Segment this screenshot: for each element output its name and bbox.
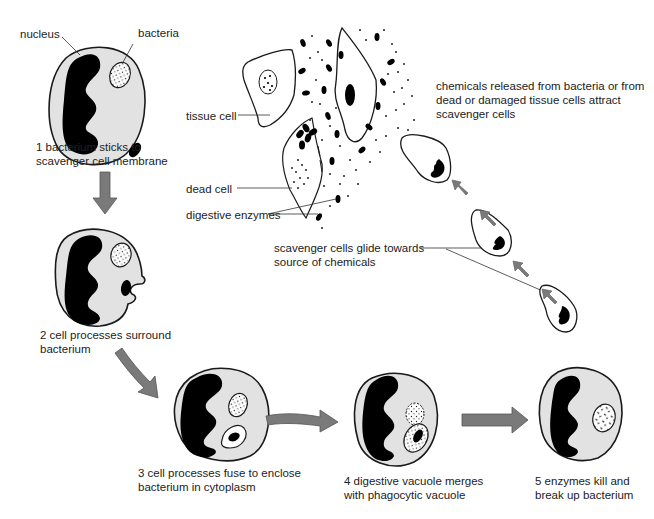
arrow-step3-to-step4	[266, 410, 338, 432]
migrating-cell-top	[401, 135, 451, 183]
step-3-caption: 3 cell processes fuse to enclose bacteri…	[138, 466, 301, 494]
label-tissue-cell: tissue cell	[186, 109, 237, 123]
label-digestive-enzymes: digestive enzymes	[186, 208, 281, 222]
label-bacteria: bacteria	[138, 26, 179, 40]
step-5-cell	[539, 368, 622, 461]
step-2-caption: 2 cell processes surround bacterium	[40, 328, 171, 356]
migrating-cell-middle	[471, 210, 511, 256]
step-5-caption: 5 enzymes kill and break up bacterium	[535, 474, 633, 502]
arrow-step4-to-step5	[462, 407, 528, 433]
step-4-cell	[355, 373, 438, 466]
step-3-cell	[174, 368, 268, 460]
step-2-cell	[55, 229, 144, 326]
label-chemicals: chemicals released from bacteria or from…	[436, 79, 644, 121]
label-dead-cell: dead cell	[186, 182, 232, 196]
tissue-area	[243, 28, 415, 229]
step-4-caption: 4 digestive vacuole merges with phagocyt…	[344, 474, 483, 502]
label-nucleus: nucleus	[20, 27, 60, 41]
label-glide: scavenger cells glide towards source of …	[274, 241, 424, 269]
step-1-caption: 1 bacterium sticks to scavenger cell mem…	[36, 140, 168, 168]
arrow-step1-to-step2	[93, 172, 117, 214]
